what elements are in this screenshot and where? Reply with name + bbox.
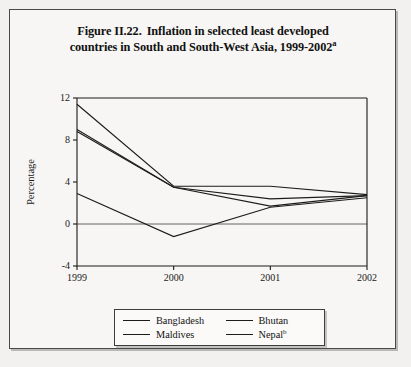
legend-item-maldives: Maldives [123, 328, 222, 343]
legend-footnote-marker-nepal: b [283, 328, 287, 336]
y-axis-title: Percentage [25, 159, 36, 205]
chart-legend: Bangladesh Bhutan Maldives Nepalb [114, 309, 325, 346]
series-line-bangladesh [77, 132, 367, 207]
figure-panel: Figure II.22.Inflation in selected least… [9, 9, 396, 349]
legend-label-maldives: Maldives [156, 329, 194, 340]
series-line-nepal [77, 104, 367, 194]
x-axis-tick-label: 2001 [260, 272, 280, 283]
legend-swatch-bhutan [226, 320, 253, 321]
legend-label-nepal: Nepalb [259, 329, 287, 340]
chart-svg: -4048121999200020012002Percentage [10, 10, 397, 350]
series-line-bhutan [77, 130, 367, 199]
legend-swatch-bangladesh [123, 320, 150, 321]
y-axis-tick-label: 0 [65, 218, 70, 229]
legend-item-nepal: Nepalb [226, 328, 325, 343]
legend-label-bhutan: Bhutan [259, 315, 289, 326]
y-axis-tick-label: -4 [62, 260, 70, 271]
legend-label-bangladesh: Bangladesh [156, 315, 204, 326]
x-axis-tick-label: 1999 [67, 272, 87, 283]
plot-frame [77, 98, 367, 266]
legend-swatch-nepal [226, 334, 253, 335]
legend-item-bangladesh: Bangladesh [123, 313, 222, 328]
line-chart: -4048121999200020012002Percentage [10, 10, 397, 350]
x-axis-tick-label: 2002 [357, 272, 377, 283]
legend-swatch-maldives [123, 334, 150, 335]
legend-item-bhutan: Bhutan [226, 313, 325, 328]
y-axis-tick-label: 4 [65, 176, 70, 187]
x-axis-tick-label: 2000 [164, 272, 184, 283]
y-axis-tick-label: 8 [65, 134, 70, 145]
y-axis-tick-label: 12 [60, 92, 70, 103]
